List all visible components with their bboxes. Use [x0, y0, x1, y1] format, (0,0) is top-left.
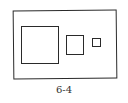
medium-square — [66, 35, 84, 55]
figure-caption: 6-4 — [0, 84, 128, 95]
large-square — [21, 26, 59, 64]
small-square — [92, 38, 101, 47]
